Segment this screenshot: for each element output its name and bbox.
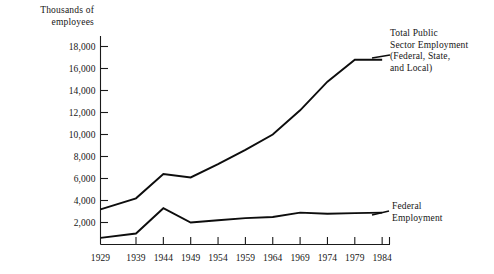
leader-line-total-public-sector [372, 55, 390, 58]
series-line-total-public-sector [101, 60, 383, 210]
x-tick-label: 1984 [362, 253, 402, 263]
series-line-federal [101, 208, 383, 238]
y-tick-label: 14,000 [38, 86, 96, 96]
y-tick-label: 8,000 [38, 152, 96, 162]
y-tick-label: 6,000 [38, 174, 96, 184]
y-tick-label: 18,000 [38, 42, 96, 52]
x-tick-label: 1929 [81, 253, 121, 263]
annotation-total-public-sector: Total Public Sector Employment (Federal,… [390, 28, 468, 74]
x-tick-marks [136, 237, 382, 245]
y-tick-label: 16,000 [38, 64, 96, 74]
y-tick-label: 4,000 [38, 196, 96, 206]
y-tick-label: 10,000 [38, 130, 96, 140]
chart-figure: Thousands of employees 2,0004,0006,0008,… [0, 0, 494, 274]
y-tick-marks [101, 47, 109, 223]
y-tick-label: 2,000 [38, 218, 96, 228]
y-tick-label: 12,000 [38, 108, 96, 118]
annotation-federal-employment: Federal Employment [392, 201, 443, 224]
